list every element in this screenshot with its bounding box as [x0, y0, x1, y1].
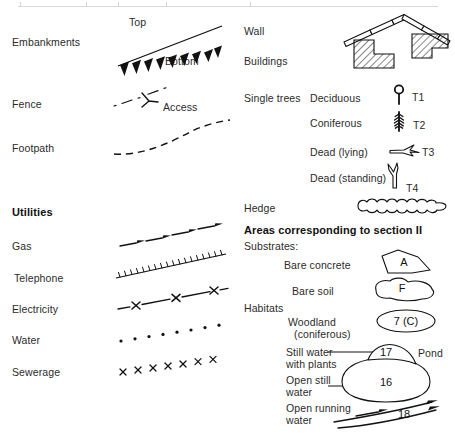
row-label-fence: Fence: [12, 98, 42, 110]
oval-patch-woodland: 7 (C): [374, 308, 440, 334]
substrate-label-bare-soil: Bare soil: [292, 285, 334, 297]
hedge-bumpy-blob-symbol: [352, 196, 452, 216]
blob-patch-soil: F: [368, 276, 442, 304]
row-label-gas: Gas: [12, 240, 32, 252]
habitat-code-16: 16: [380, 376, 392, 388]
utilities-heading: Utilities: [12, 206, 53, 218]
map-legend-panel: Embankments Top Bottom Fence Access Foot…: [0, 0, 455, 437]
substrate-code-f: F: [399, 282, 406, 294]
row-label-water: Water: [12, 334, 40, 346]
angular-polygon-patch-concrete: A: [372, 248, 442, 278]
buildings-hatched-blocks-symbol: [352, 28, 452, 70]
habitat-label-open-still-water: Open still water: [286, 374, 331, 398]
coniferous-tree-icon: [392, 110, 410, 132]
habitats-group-label: Habitats: [244, 302, 283, 314]
tree-label-dead-lying: Dead (lying): [310, 146, 368, 158]
areas-section-heading: Areas corresponding to section II: [244, 224, 422, 236]
tree-code-t1: T1: [412, 91, 424, 103]
row-label-electricity: Electricity: [12, 303, 58, 315]
habitat-label-woodland-coniferous: Woodland (coniferous): [288, 316, 351, 340]
row-label-buildings: Buildings: [244, 55, 288, 67]
water-dotted-line-symbol: [118, 314, 232, 346]
dead-standing-tree-icon: [386, 162, 408, 190]
tree-code-t3: T3: [422, 146, 434, 158]
group-label-single-trees: Single trees: [244, 92, 301, 104]
dead-lying-tree-icon: [388, 142, 422, 158]
row-label-footpath: Footpath: [12, 142, 54, 154]
row-label-sewerage: Sewerage: [12, 366, 60, 378]
habitat-code-17: 17: [380, 346, 392, 358]
substrate-code-a: A: [400, 256, 408, 268]
sewerage-x-marks-symbol: [118, 346, 232, 378]
substrate-label-bare-concrete: Bare concrete: [284, 259, 351, 271]
electricity-dash-x-line-symbol: [116, 282, 230, 314]
tree-label-dead-standing: Dead (standing): [310, 172, 386, 184]
deciduous-tree-icon: [392, 84, 410, 106]
row-label-hedge: Hedge: [244, 202, 275, 214]
pond-and-river-composite-symbol: 17 16 18: [328, 338, 454, 434]
footpath-dashed-symbol: [112, 118, 234, 160]
substrates-group-label: Substrates:: [244, 240, 298, 252]
row-label-embankments: Embankments: [12, 36, 80, 48]
embankment-teeth-symbol: [110, 18, 230, 76]
habitat-code-18: 18: [398, 408, 410, 420]
tree-label-coniferous: Coniferous: [310, 117, 362, 129]
habitat-code-woodland: 7 (C): [394, 315, 418, 327]
row-label-wall: Wall: [244, 25, 264, 37]
cropped-top-edge: [0, 0, 455, 7]
gas-arrow-line-symbol: [118, 218, 228, 250]
fence-dash-dot-symbol: [112, 80, 222, 112]
row-label-telephone: Telephone: [14, 272, 63, 284]
tree-label-deciduous: Deciduous: [310, 92, 361, 104]
tree-code-t2: T2: [413, 119, 425, 131]
telephone-comb-line-symbol: [114, 248, 230, 282]
